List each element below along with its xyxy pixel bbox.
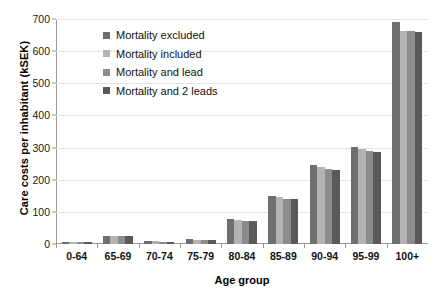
x-axis-tick-mark [387, 244, 388, 248]
bar [69, 242, 77, 244]
bar [186, 239, 194, 244]
bar [332, 170, 340, 244]
x-axis-tick-labels: 0-6465-6970-7475-7980-8485-8990-9495-991… [56, 250, 428, 262]
bar [103, 236, 111, 244]
bar [62, 242, 70, 244]
bar-group [263, 19, 304, 244]
x-axis-tick-mark [97, 244, 98, 248]
bar [201, 240, 209, 244]
y-axis-title: Care costs per inhabitant (kSEK) [18, 8, 30, 248]
bar [77, 242, 85, 244]
bar [125, 236, 133, 244]
legend-label: Mortality excluded [116, 29, 205, 41]
legend-label: Mortality and 2 leads [116, 85, 218, 97]
legend-label: Mortality included [116, 48, 202, 60]
x-axis-tick-label: 90-94 [304, 250, 345, 262]
y-axis-tick-label: 200 [32, 174, 50, 186]
bar [193, 240, 201, 245]
y-axis-tick-label: 400 [32, 109, 50, 121]
bar [373, 152, 381, 244]
bar [317, 167, 325, 244]
legend-label: Mortality and lead [116, 66, 203, 78]
legend-swatch-icon [103, 69, 110, 76]
bar [400, 31, 408, 244]
x-axis-tick-label: 0-64 [56, 250, 97, 262]
bar-chart: Care costs per inhabitant (kSEK) 0100200… [0, 0, 440, 301]
bar [351, 147, 359, 244]
bar [358, 149, 366, 244]
x-axis-tick-label: 80-84 [221, 250, 262, 262]
x-axis-tick-mark [180, 244, 181, 248]
x-axis-tick-label: 70-74 [139, 250, 180, 262]
legend-item: Mortality excluded [103, 26, 218, 45]
bar [208, 240, 216, 244]
y-axis-tick-label: 100 [32, 206, 50, 218]
bar [144, 241, 152, 244]
x-axis-tick-mark [221, 244, 222, 248]
bar [415, 32, 423, 244]
bar-group [387, 19, 428, 244]
bar [291, 199, 299, 244]
legend-item: Mortality included [103, 45, 218, 64]
bar [366, 151, 374, 244]
legend-swatch-icon [103, 50, 110, 57]
bar [283, 199, 291, 244]
bar [242, 221, 250, 244]
y-axis-tick-label: 300 [32, 142, 50, 154]
bar [268, 196, 276, 244]
bar-group [56, 19, 97, 244]
bar-group [304, 19, 345, 244]
bar [234, 220, 242, 244]
legend-item: Mortality and 2 leads [103, 82, 218, 101]
bar [110, 236, 118, 244]
legend-swatch-icon [103, 87, 110, 94]
bar [84, 242, 92, 244]
legend-item: Mortality and lead [103, 63, 218, 82]
x-axis-tick-mark [304, 244, 305, 248]
y-axis-tick-label: 500 [32, 77, 50, 89]
x-axis-tick-mark [345, 244, 346, 248]
x-axis-tick-label: 65-69 [97, 250, 138, 262]
y-axis-tick-label: 700 [32, 13, 50, 25]
x-axis-tick-label: 100+ [387, 250, 428, 262]
x-axis-title: Age group [56, 274, 428, 286]
bar-group [345, 19, 386, 244]
legend-swatch-icon [103, 32, 110, 39]
bar [392, 22, 400, 244]
bar [118, 236, 126, 244]
x-axis-tick-label: 85-89 [263, 250, 304, 262]
bar [407, 31, 415, 244]
y-axis-tick-label: 600 [32, 45, 50, 57]
bar [325, 169, 333, 244]
bar [310, 165, 318, 244]
bar [152, 241, 160, 244]
bar [227, 219, 235, 244]
x-axis-tick-mark [263, 244, 264, 248]
x-axis-tick-mark [56, 244, 57, 248]
x-axis-tick-label: 75-79 [180, 250, 221, 262]
bar-group [221, 19, 262, 244]
bar [276, 197, 284, 244]
x-axis-tick-mark [139, 244, 140, 248]
bar [167, 242, 175, 244]
bar [249, 221, 257, 244]
y-axis-tick-label: 0 [44, 238, 50, 250]
chart-legend: Mortality excludedMortality includedMort… [103, 26, 218, 100]
x-axis-tick-label: 95-99 [345, 250, 386, 262]
bar [159, 242, 167, 244]
